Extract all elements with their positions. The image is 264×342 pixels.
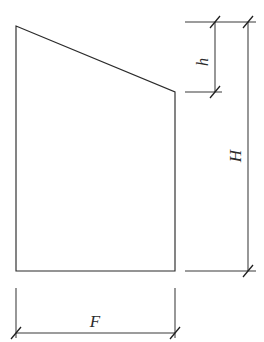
dimension-label-h: h	[194, 58, 211, 66]
quadrilateral-outline	[16, 26, 175, 271]
diagram-canvas: h H F	[0, 0, 264, 342]
dimension-label-F: F	[89, 312, 101, 331]
dimension-label-H: H	[226, 148, 245, 163]
dimension-diagram: h H F	[0, 0, 264, 342]
